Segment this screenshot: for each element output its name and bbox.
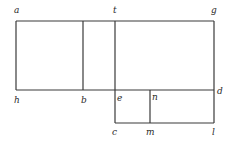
geometry-diagram: a t g h b e n d c m l (0, 0, 231, 143)
label-b: b (81, 95, 87, 105)
label-n: n (152, 92, 158, 102)
label-t: t (113, 5, 117, 15)
label-h: h (14, 95, 20, 105)
label-e: e (117, 93, 122, 103)
label-l: l (212, 127, 215, 137)
label-g: g (211, 5, 217, 15)
label-c: c (112, 127, 117, 137)
label-d: d (217, 86, 223, 96)
label-m: m (146, 127, 155, 137)
label-a: a (14, 5, 19, 15)
